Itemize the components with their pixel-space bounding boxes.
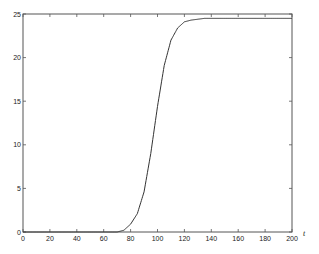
plot-border [23,14,292,232]
x-tick-label: 120 [179,235,191,242]
x-tick-label: 80 [127,235,135,242]
y-tick-label: 5 [17,185,21,192]
y-tick-label: 20 [13,54,21,61]
axis-ticks [23,14,292,232]
y-tick-label: 10 [13,141,21,148]
plot-frame [23,14,292,232]
y-tick-label: 0 [17,229,21,236]
x-tick-label: 180 [259,235,271,242]
data-line [23,18,292,232]
x-tick-label: 160 [232,235,244,242]
x-tick-label: 140 [205,235,217,242]
x-tick-label: 200 [286,235,298,242]
chart: 0204060801001201401601802000510152025 t [0,0,319,254]
y-tick-label: 25 [13,11,21,18]
x-tick-label: 100 [152,235,164,242]
x-tick-label: 20 [46,235,54,242]
x-tick-label: 0 [21,235,25,242]
y-tick-label: 15 [13,98,21,105]
x-tick-label: 40 [73,235,81,242]
x-axis-label: t [303,229,306,238]
tick-labels: 0204060801001201401601802000510152025 [13,11,298,243]
x-tick-label: 60 [100,235,108,242]
